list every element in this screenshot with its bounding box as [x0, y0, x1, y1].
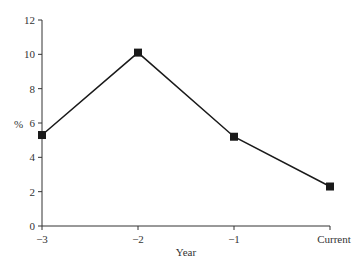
data-point-marker — [38, 131, 46, 139]
data-point-marker — [326, 183, 334, 191]
y-tick-label: 4 — [30, 151, 36, 163]
y-axis-label: % — [14, 118, 23, 130]
y-tick-label: 6 — [30, 117, 36, 129]
x-tick-label: −2 — [132, 233, 144, 245]
x-axis-label: Year — [176, 246, 197, 258]
x-tick-label: Current — [317, 233, 351, 245]
y-axis: 024681012 — [24, 14, 42, 232]
line-chart: 024681012 −3−2−1Current % Year — [0, 0, 363, 273]
data-point-marker — [134, 49, 142, 57]
data-series — [38, 49, 334, 191]
x-tick-label: −1 — [228, 233, 240, 245]
y-tick-label: 0 — [30, 220, 36, 232]
data-point-marker — [230, 133, 238, 141]
x-axis: −3−2−1Current — [36, 226, 351, 245]
y-tick-label: 2 — [30, 186, 36, 198]
y-tick-label: 12 — [24, 14, 35, 26]
x-tick-label: −3 — [36, 233, 48, 245]
y-tick-label: 10 — [24, 48, 36, 60]
series-line — [42, 53, 330, 187]
y-tick-label: 8 — [30, 83, 36, 95]
